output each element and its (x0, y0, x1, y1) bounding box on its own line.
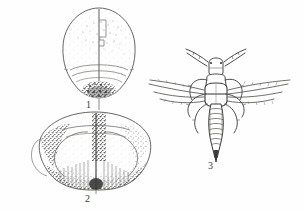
figure-1-dark-patch (82, 81, 116, 99)
hindwing-right-lower (227, 99, 274, 103)
figure-3-wings-right (227, 80, 290, 103)
figure-3-adult-insect (149, 49, 290, 162)
figure-1-number-label: 1 (86, 100, 91, 110)
figure-3-abdomen-tip (214, 150, 218, 162)
leg-hind-right (225, 104, 237, 133)
figure-1-head-dorsal-view (62, 8, 138, 110)
hindwing-left-lower (160, 99, 205, 103)
leg-hind-left (195, 104, 207, 133)
forewing-left-upper (150, 80, 204, 90)
antenna-right-inner (225, 53, 245, 66)
antenna-left-inner (187, 53, 207, 66)
illustration-plate: 1 2 3 (0, 0, 305, 213)
figure-3-number-label: 3 (208, 161, 213, 171)
figure-3-wing-fringe-right (244, 81, 277, 105)
figure-2-pronotum-dorsal-view (31, 110, 152, 194)
figure-2-number-label: 2 (85, 194, 90, 204)
figure-3-wings-left (149, 80, 205, 103)
plate-artwork (0, 0, 305, 213)
figure-2-median-dark-band (92, 113, 106, 161)
